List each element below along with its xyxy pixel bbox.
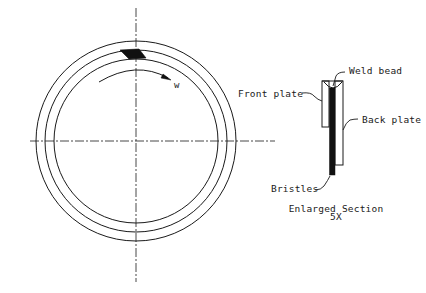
back-plate-label: Back plate	[362, 115, 421, 125]
front-plate-leader	[302, 93, 322, 101]
rotation-arrowhead-icon	[161, 74, 171, 80]
bristle-pack	[330, 88, 336, 175]
rotation-arrow-arc	[99, 70, 168, 82]
ring-view	[30, 8, 275, 282]
brush-seal-diagram: w Weld bead Front plate Back plate Brist…	[0, 0, 426, 293]
section-caption-scale: 5X	[330, 212, 342, 222]
front-plate-label: Front plate	[238, 89, 303, 99]
back-plate-leader	[343, 119, 358, 130]
weld-bead-label: Weld bead	[349, 66, 402, 76]
front-plate	[322, 81, 329, 127]
bristles-label: Bristles	[271, 184, 318, 194]
rotation-label: w	[174, 80, 180, 90]
section-view	[302, 72, 358, 190]
back-plate	[335, 81, 343, 165]
